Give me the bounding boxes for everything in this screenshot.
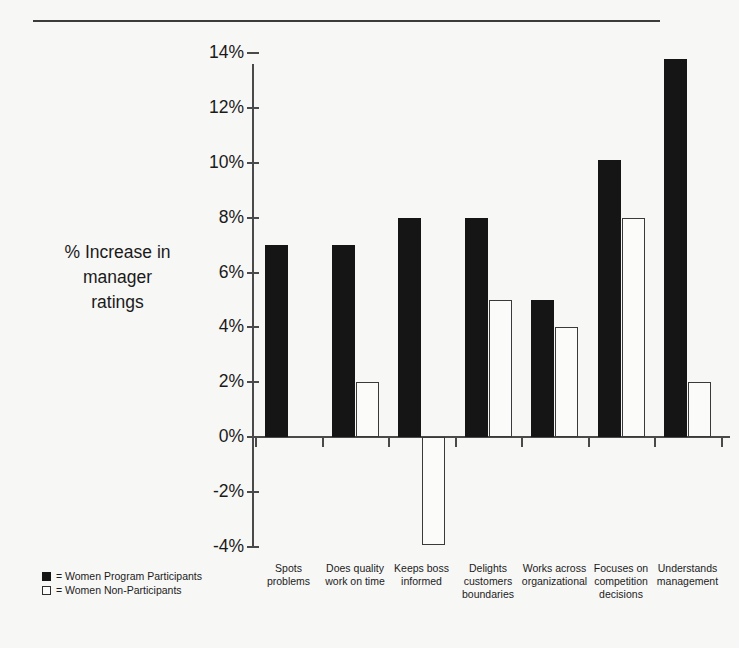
y-axis-tick-label: 12%	[196, 99, 244, 117]
y-axis-tick-mark	[247, 107, 259, 109]
legend-row: = Women Program Participants	[42, 569, 202, 583]
y-axis-tick-label: 10%	[196, 154, 244, 172]
y-axis-title-line-2: manager	[25, 265, 210, 290]
y-axis-tick-mark	[247, 491, 259, 493]
x-axis-category-label: Works acrossorganizational	[520, 562, 590, 588]
y-axis-tick-mark	[247, 272, 259, 274]
group-separator-tick	[322, 436, 324, 447]
x-axis-category-label-line: Spots	[254, 562, 324, 575]
bar-participants-2	[398, 218, 421, 437]
legend-row: = Women Non-Participants	[42, 583, 202, 597]
bar-non-participants-3	[489, 300, 512, 437]
x-axis-category-label: Focuses oncompetitiondecisions	[586, 562, 656, 601]
y-axis-spine	[252, 64, 254, 546]
bar-non-participants-6	[688, 382, 711, 437]
x-axis-category-label-line: organizational	[520, 575, 590, 588]
y-axis-tick-label: 2%	[196, 373, 244, 391]
y-axis-tick-mark	[247, 381, 259, 383]
grouped-bar-chart: % Increase in manager ratings 14%12%10%8…	[0, 0, 739, 648]
x-axis-category-label: Spotsproblems	[254, 562, 324, 588]
x-axis-category-label-line: Works across	[520, 562, 590, 575]
y-axis-tick-mark	[247, 326, 259, 328]
x-axis-category-label-line: Keeps boss	[387, 562, 457, 575]
y-axis-tick-label: 8%	[196, 209, 244, 227]
bar-participants-0	[265, 245, 288, 437]
x-axis-category-label: Does qualitywork on time	[320, 562, 390, 588]
chart-legend: = Women Program Participants = Women Non…	[42, 569, 202, 597]
y-axis-tick-mark	[247, 162, 259, 164]
y-axis-tick-label: 6%	[196, 264, 244, 282]
x-axis-category-label-line: customers	[453, 575, 523, 588]
group-separator-tick	[255, 436, 257, 447]
bar-non-participants-4	[555, 327, 578, 437]
legend-label: = Women Non-Participants	[56, 583, 182, 597]
y-axis-title: % Increase in manager ratings	[25, 240, 210, 315]
y-axis-title-line-1: % Increase in	[25, 240, 210, 265]
x-axis-category-label: Delightscustomersboundaries	[453, 562, 523, 601]
bar-participants-4	[531, 300, 554, 437]
group-separator-tick	[588, 436, 590, 447]
y-axis-tick-label: -4%	[196, 538, 244, 556]
x-axis-category-label-line: problems	[254, 575, 324, 588]
bar-participants-1	[332, 245, 355, 437]
x-axis-category-label: Keeps bossinformed	[387, 562, 457, 588]
y-axis-tick-label: -2%	[196, 483, 244, 501]
x-axis-category-label-line: boundaries	[453, 588, 523, 601]
y-axis-tick-label: 4%	[196, 319, 244, 337]
y-axis-tick-mark	[247, 52, 259, 54]
bar-non-participants-1	[356, 382, 379, 437]
y-axis-tick-mark	[247, 217, 259, 219]
x-axis-category-label-line: Does quality	[320, 562, 390, 575]
y-axis-tick-label: 0%	[196, 428, 244, 446]
x-axis-category-label-line: decisions	[586, 588, 656, 601]
bar-participants-6	[664, 59, 687, 437]
y-axis-title-line-3: ratings	[25, 290, 210, 315]
group-separator-tick	[521, 436, 523, 447]
group-separator-tick	[654, 436, 656, 447]
bar-non-participants-2	[422, 437, 445, 545]
x-axis-category-label-line: work on time	[320, 575, 390, 588]
group-separator-tick	[721, 436, 723, 447]
bar-participants-3	[465, 218, 488, 437]
bar-non-participants-5	[622, 218, 645, 437]
legend-label: = Women Program Participants	[56, 569, 202, 583]
group-separator-tick	[388, 436, 390, 447]
x-axis-category-label-line: informed	[387, 575, 457, 588]
x-axis-category-label-line: Focuses on	[586, 562, 656, 575]
x-axis-category-label-line: Delights	[453, 562, 523, 575]
filled-square-icon	[42, 572, 51, 581]
x-axis-category-label-line: management	[653, 575, 723, 588]
y-axis-tick-label: 14%	[196, 45, 244, 63]
y-axis-tick-mark	[247, 436, 259, 438]
x-axis-category-label-line: Understands	[653, 562, 723, 575]
group-separator-tick	[455, 436, 457, 447]
hollow-square-icon	[42, 586, 51, 595]
x-axis-category-label: Understandsmanagement	[653, 562, 723, 588]
x-axis-category-label-line: competition	[586, 575, 656, 588]
bar-participants-5	[598, 160, 621, 437]
y-axis-tick-mark	[247, 546, 259, 548]
